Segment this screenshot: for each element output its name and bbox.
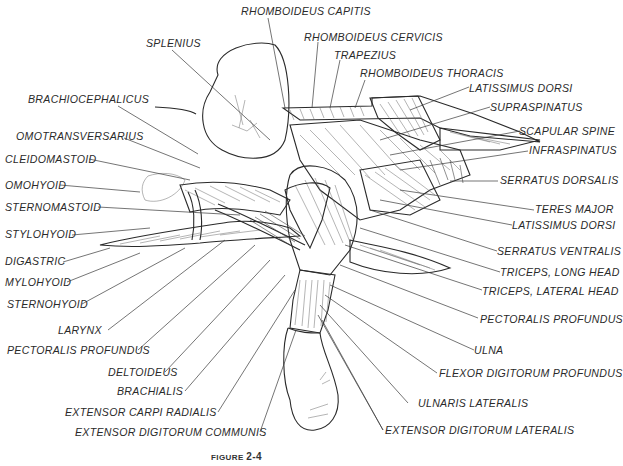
label-stylohyoid: STYLOHYOID: [5, 228, 76, 240]
label-rhomboideus-capitis: RHOMBOIDEUS CAPITIS: [241, 5, 371, 17]
label-digastric: DIGASTRIC: [5, 255, 65, 267]
label-rhomboideus-thoracis: RHOMBOIDEUS THORACIS: [360, 67, 504, 79]
label-extensor-carpi-radialis: EXTENSOR CARPI RADIALIS: [65, 406, 217, 418]
label-serratus-dorsalis: SERRATUS DORSALIS: [500, 174, 619, 186]
label-brachiocephalicus: BRACHIOCEPHALICUS: [28, 93, 149, 105]
label-omohyoid: OMOHYOID: [5, 179, 66, 191]
label-rhomboideus-cervicis: RHOMBOIDEUS CERVICIS: [304, 31, 443, 43]
figure-caption: FIGURE 2-4: [211, 451, 262, 462]
label-triceps-lateral-head: TRICEPS, LATERAL HEAD: [482, 285, 619, 297]
label-deltoideus: DELTOIDEUS: [108, 366, 178, 378]
label-ulnaris-lateralis: ULNARIS LATERALIS: [418, 397, 528, 409]
label-pectoralis-profundus-right: PECTORALIS PROFUNDUS: [480, 313, 623, 325]
label-pectoralis-profundus-left: PECTORALIS PROFUNDUS: [7, 344, 150, 356]
label-supraspinatus: SUPRASPINATUS: [490, 101, 583, 113]
label-extensor-digitorum-communis: EXTENSOR DIGITORUM COMMUNIS: [75, 426, 267, 438]
label-teres-major: TERES MAJOR: [535, 203, 614, 215]
label-cleidomastoid: CLEIDOMASTOID: [5, 153, 96, 165]
caption-prefix: FIGURE: [211, 453, 244, 462]
label-larynx: LARYNX: [58, 324, 102, 336]
label-extensor-digitorum-lateralis: EXTENSOR DIGITORUM LATERALIS: [385, 424, 574, 436]
label-ulna: ULNA: [474, 344, 503, 356]
label-latissimus-dorsi: LATISSIMUS DORSI: [512, 219, 616, 231]
label-scapular-spine: SCAPULAR SPINE: [519, 125, 615, 137]
label-trapezius: TRAPEZIUS: [334, 49, 396, 61]
label-splenius: SPLENIUS: [146, 37, 201, 49]
label-latissimus-dorsi-top: LATISSIMUS DORSI: [469, 82, 573, 94]
caption-number: 2-4: [246, 451, 262, 462]
label-sternomastoid: STERNOMASTOID: [5, 201, 101, 213]
label-brachialis: BRACHIALIS: [117, 385, 183, 397]
label-flexor-digitorum-profundus: FLEXOR DIGITORUM PROFUNDUS: [439, 367, 623, 379]
label-omotransversarius: OMOTRANSVERSARIUS: [16, 130, 144, 142]
label-mylohyoid: MYLOHYOID: [5, 276, 71, 288]
label-infraspinatus: INFRASPINATUS: [529, 144, 617, 156]
label-triceps-long-head: TRICEPS, LONG HEAD: [500, 266, 620, 278]
label-sternohyoid: STERNOHYOID: [7, 298, 88, 310]
label-serratus-ventralis: SERRATUS VENTRALIS: [497, 245, 621, 257]
